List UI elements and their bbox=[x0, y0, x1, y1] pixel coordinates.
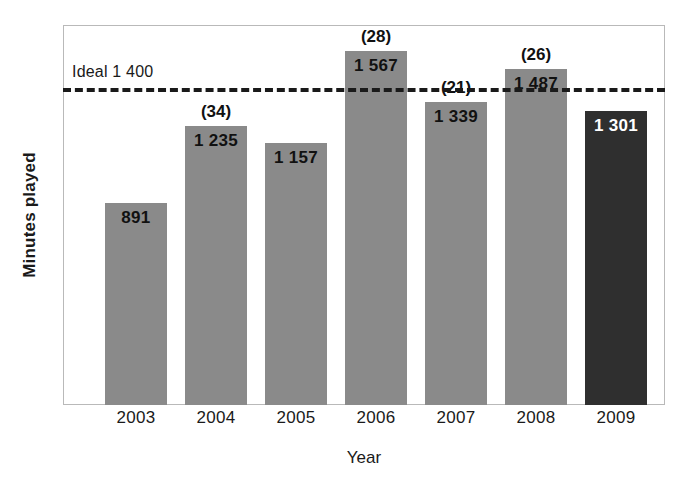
bar-value-label: 1 339 bbox=[425, 107, 487, 127]
bar-value-label: 891 bbox=[105, 208, 167, 228]
ideal-reference-line bbox=[63, 88, 665, 92]
x-tick-2005: 2005 bbox=[265, 408, 327, 428]
bar-value-label: 1 301 bbox=[585, 116, 647, 136]
bars-layer: 8911 235(34)1 1571 567(28)1 339(21)1 487… bbox=[63, 25, 665, 405]
bar-2009[interactable]: 1 301 bbox=[585, 111, 647, 405]
y-axis-title-text: Minutes played bbox=[20, 152, 40, 278]
bar-2005[interactable]: 1 157 bbox=[265, 143, 327, 405]
ideal-reference-label: Ideal 1 400 bbox=[72, 63, 153, 81]
bar-2007[interactable]: 1 339 bbox=[425, 102, 487, 405]
bar-annotation-2004: (34) bbox=[185, 102, 247, 122]
bar-2006[interactable]: 1 567 bbox=[345, 51, 407, 405]
x-tick-2007: 2007 bbox=[425, 408, 487, 428]
bar-group: 1 567(28) bbox=[345, 25, 407, 405]
bar-2008[interactable]: 1 487 bbox=[505, 69, 567, 405]
x-tick-2004: 2004 bbox=[185, 408, 247, 428]
bar-chart: Minutes played 8911 235(34)1 1571 567(28… bbox=[0, 0, 690, 491]
bar-value-label: 1 235 bbox=[185, 131, 247, 151]
bar-group: 891 bbox=[105, 25, 167, 405]
x-tick-2003: 2003 bbox=[105, 408, 167, 428]
bar-group: 1 301 bbox=[585, 25, 647, 405]
bar-group: 1 235(34) bbox=[185, 25, 247, 405]
bar-2004[interactable]: 1 235 bbox=[185, 126, 247, 405]
bar-annotation-2006: (28) bbox=[345, 27, 407, 47]
bar-2003[interactable]: 891 bbox=[105, 203, 167, 405]
bar-annotation-2008: (26) bbox=[505, 45, 567, 65]
bar-value-label: 1 567 bbox=[345, 56, 407, 76]
x-tick-2008: 2008 bbox=[505, 408, 567, 428]
y-axis-title: Minutes played bbox=[0, 0, 60, 491]
bar-group: 1 487(26) bbox=[505, 25, 567, 405]
bar-group: 1 339(21) bbox=[425, 25, 487, 405]
bar-value-label: 1 157 bbox=[265, 148, 327, 168]
bar-group: 1 157 bbox=[265, 25, 327, 405]
x-axis-tick-labels: 2003200420052006200720082009 bbox=[63, 408, 665, 438]
x-tick-2006: 2006 bbox=[345, 408, 407, 428]
x-axis-title: Year bbox=[63, 448, 665, 468]
x-tick-2009: 2009 bbox=[585, 408, 647, 428]
